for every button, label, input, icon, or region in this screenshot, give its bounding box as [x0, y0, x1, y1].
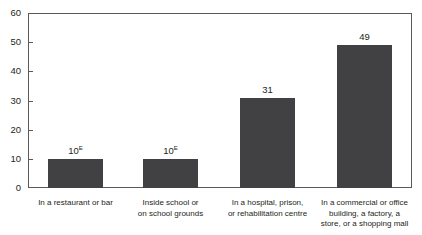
category-label-restaurant-or-bar: In a restaurant or bar — [38, 198, 113, 209]
x-axis-category-labels: In a restaurant or bar Inside school oro… — [0, 192, 422, 235]
bar-inside-school — [143, 159, 198, 188]
bar-chart: 60 50 40 30 20 10 0 10E 10E 31 49 In a r… — [0, 0, 422, 235]
bar-commercial-office — [337, 45, 392, 188]
category-label-hospital-prison: In a hospital, prison,or rehabilitation … — [228, 198, 307, 219]
bar-hospital-prison — [240, 98, 295, 188]
bar-value-label-0: 10E — [68, 146, 83, 156]
bar-restaurant-or-bar — [48, 159, 103, 188]
bar-value-label-1: 10E — [163, 146, 178, 156]
bar-value-label-3: 49 — [359, 32, 370, 42]
bar-value-label-2: 31 — [262, 85, 273, 95]
category-label-commercial-office: In a commercial or officebuilding, a fac… — [321, 198, 409, 230]
category-label-inside-school: Inside school oron school grounds — [138, 198, 203, 219]
